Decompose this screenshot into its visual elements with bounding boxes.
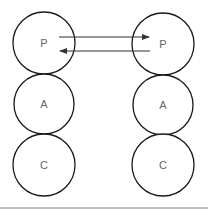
left-node-a-label: A xyxy=(40,98,48,110)
right-column: P A C xyxy=(132,13,194,196)
right-node-a-label: A xyxy=(159,99,167,111)
left-node-c[interactable]: C xyxy=(13,134,75,196)
layer-diagram: P A C P A C xyxy=(0,0,208,210)
right-node-a[interactable]: A xyxy=(133,75,193,135)
right-node-c-label: C xyxy=(159,159,167,171)
bottom-divider xyxy=(0,207,208,209)
right-node-p-label: P xyxy=(159,38,166,50)
left-node-c-label: C xyxy=(40,159,48,171)
left-node-p[interactable]: P xyxy=(13,12,75,74)
right-node-p[interactable]: P xyxy=(132,13,194,75)
left-node-p-label: P xyxy=(40,37,47,49)
right-node-c[interactable]: C xyxy=(132,134,194,196)
left-column: P A C xyxy=(13,12,75,196)
left-node-a[interactable]: A xyxy=(14,74,74,134)
